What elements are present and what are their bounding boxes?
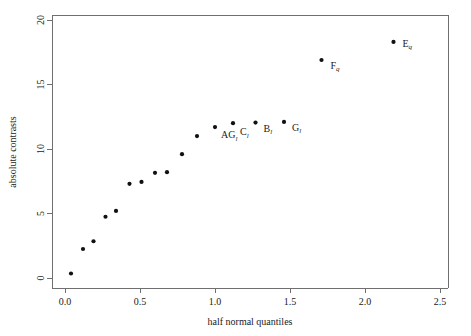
data-point-9 (180, 152, 184, 156)
data-point-8 (165, 170, 169, 174)
data-point-14 (282, 120, 286, 124)
data-point-7 (153, 171, 157, 175)
point-label-base: G (292, 122, 299, 133)
y-axis-title: absolute contrasts (7, 116, 18, 187)
data-point-2 (91, 239, 95, 243)
half-normal-plot: 0.00.51.01.52.02.5 05101520 AGlClBlGlFqE… (0, 0, 471, 336)
x-tick-label-1: 0.5 (134, 296, 147, 307)
data-point-11 (213, 125, 217, 129)
y-tick-label-4: 20 (35, 15, 46, 25)
point-label-subscript: l (299, 127, 301, 135)
point-label-subscript: l (247, 132, 249, 140)
data-point-0 (69, 271, 73, 275)
data-point-15 (319, 58, 323, 62)
x-axis-title: half normal quantiles (208, 316, 293, 327)
data-point-16 (391, 40, 395, 44)
point-label-subscript: q (336, 65, 340, 73)
y-tick-label-2: 10 (35, 144, 46, 154)
x-tick-label-3: 1.5 (284, 296, 297, 307)
plot-canvas: 0.00.51.01.52.02.5 05101520 AGlClBlGlFqE… (0, 0, 471, 336)
y-tick-label-0: 0 (35, 276, 46, 281)
data-point-5 (127, 182, 131, 186)
data-point-1 (81, 247, 85, 251)
x-tick-label-4: 2.0 (359, 296, 372, 307)
x-tick-label-5: 2.5 (434, 296, 447, 307)
data-point-10 (195, 134, 199, 138)
data-point-12 (231, 121, 235, 125)
point-label-base: AG (221, 129, 235, 140)
data-point-6 (139, 180, 143, 184)
y-tick-label-3: 15 (35, 80, 46, 90)
point-label-subscript: l (270, 128, 272, 136)
data-point-3 (103, 215, 107, 219)
plot-background (0, 0, 471, 336)
data-point-13 (253, 120, 257, 124)
data-point-4 (114, 209, 118, 213)
x-tick-label-2: 1.0 (209, 296, 222, 307)
x-tick-label-0: 0.0 (59, 296, 72, 307)
point-label-subscript: l (235, 135, 237, 143)
point-label-subscript: q (409, 43, 413, 51)
y-tick-label-1: 5 (35, 211, 46, 216)
